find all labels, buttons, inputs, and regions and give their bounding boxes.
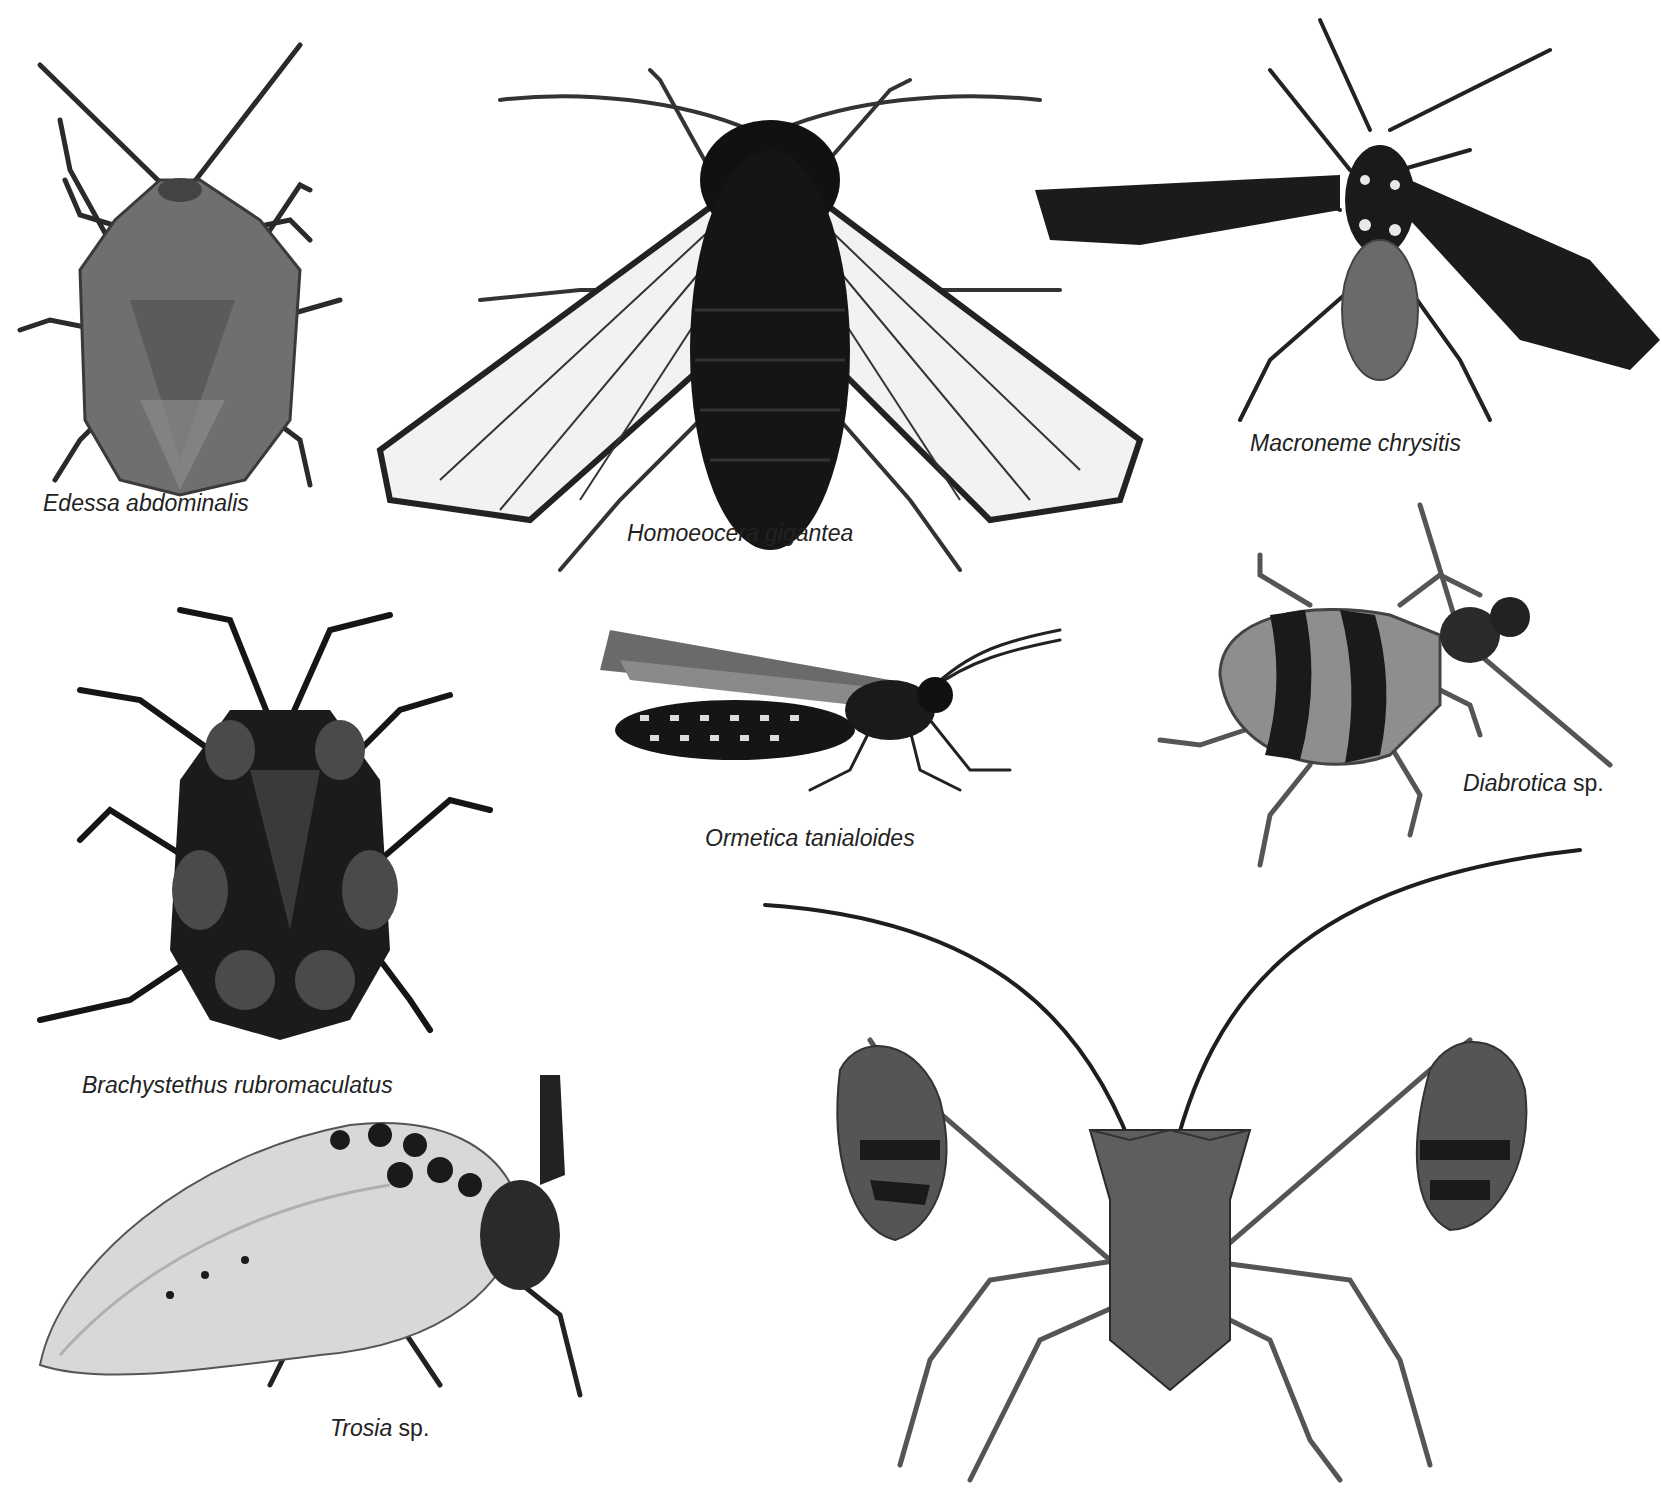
label-homoeocera-gigantea: Homoeocera gigantea bbox=[627, 520, 853, 547]
leaf-footed-bug-image bbox=[790, 840, 1590, 1500]
species-name: Trosia bbox=[330, 1415, 392, 1441]
species-name: Diabrotica bbox=[1463, 770, 1567, 796]
shield-bug-image bbox=[30, 600, 500, 1040]
specimen-diabrotica bbox=[1160, 505, 1630, 865]
specimen-plate: Edessa abdominalis Homoeocera gigante bbox=[0, 0, 1662, 1508]
stink-bug-image bbox=[10, 40, 350, 500]
specimen-brachystethus-rubromaculatus bbox=[30, 600, 500, 1040]
specimen-macroneme-chrysitis bbox=[1090, 10, 1660, 450]
clear-winged-moth-image bbox=[380, 60, 1160, 580]
leaf-beetle-image bbox=[1160, 505, 1630, 865]
wasp-moth-image bbox=[1090, 10, 1660, 450]
species-name: Homoeocera gigantea bbox=[627, 520, 853, 546]
label-edessa-abdominalis: Edessa abdominalis bbox=[43, 490, 249, 517]
specimen-homoeocera-gigantea bbox=[380, 60, 1160, 580]
species-name: Macroneme chrysitis bbox=[1250, 430, 1461, 456]
label-macroneme-chrysitis: Macroneme chrysitis bbox=[1250, 430, 1461, 457]
specimen-leaf-footed-bug bbox=[790, 840, 1590, 1500]
species-name: Edessa abdominalis bbox=[43, 490, 249, 516]
specimen-edessa-abdominalis bbox=[10, 40, 350, 500]
tiger-moth-image bbox=[590, 620, 1070, 820]
label-diabrotica: Diabrotica sp. bbox=[1463, 770, 1604, 797]
label-trosia: Trosia sp. bbox=[330, 1415, 429, 1442]
specimen-ormetica-tanialoides bbox=[590, 620, 1070, 820]
furry-moth-image bbox=[20, 1065, 590, 1405]
specimen-trosia bbox=[20, 1065, 590, 1405]
